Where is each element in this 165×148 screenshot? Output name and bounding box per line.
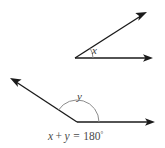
equation-degree-symbol: ° [100, 130, 103, 138]
angle-label-y: y [76, 90, 82, 102]
bottom-angle-arc [59, 100, 99, 122]
bottom-slanted-arrowhead [10, 78, 22, 87]
geometry-canvas: x y x+y=180° [0, 0, 165, 148]
top-slanted-arrowhead [135, 12, 147, 21]
top-angle-group: x [75, 12, 153, 62]
angle-label-x: x [91, 44, 97, 56]
geometry-figure: x y x+y=180° [0, 0, 165, 148]
equation-value: 180 [83, 130, 101, 142]
equation-left-var: x [47, 130, 54, 142]
equation-equals: = [73, 130, 80, 142]
equation-plus: + [56, 130, 63, 142]
top-slanted-ray [75, 16, 142, 59]
equation-right-var: y [64, 130, 71, 143]
bottom-angle-group: y [10, 78, 155, 126]
equation-line: x+y=180° [47, 130, 103, 143]
equation-caption: x+y=180° [47, 130, 103, 143]
